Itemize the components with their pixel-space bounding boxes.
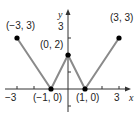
y-axis-arrow-icon (66, 9, 71, 15)
point-neg3-3 (14, 35, 19, 40)
tick-label-x-3: 3 (114, 92, 120, 103)
point-label-0-2: (0, 2) (40, 39, 63, 50)
y-axis-label: y (57, 9, 63, 20)
x-axis-arrow-icon (125, 87, 131, 92)
point-label-neg3-3: (−3, 3) (6, 20, 35, 31)
point-0-2 (65, 52, 70, 57)
point-label-neg1-0: (−1, 0) (33, 92, 62, 103)
graph-canvas: y x 3 −3 3 (−3, 3) (0, 2) (3, 3) (−1, 0)… (0, 0, 137, 114)
point-label-1-0: (1, 0) (76, 92, 99, 103)
x-axis-label: x (128, 92, 134, 103)
point-label-3-3: (3, 3) (110, 12, 133, 23)
tick-label-y-3: 3 (58, 21, 64, 32)
point-3-3 (116, 35, 121, 40)
point-neg1-0 (48, 86, 53, 91)
point-1-0 (82, 86, 87, 91)
tick-label-x-neg3: −3 (5, 92, 17, 103)
